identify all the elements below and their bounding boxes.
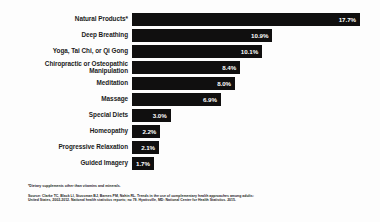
bar-category-label: Guided Imagery <box>0 160 132 167</box>
bar-row: Massage6.9% <box>0 93 380 106</box>
bar: 3.0% <box>132 109 171 122</box>
bar: 6.9% <box>132 93 221 106</box>
bar-value-label: 8.0% <box>217 80 231 87</box>
bar-value-label: 10.1% <box>241 48 258 55</box>
bar-category-label: Deep Breathing <box>0 32 132 39</box>
bar-row: Homeopathy2.2% <box>0 125 380 138</box>
bar-track: 2.2% <box>132 125 380 138</box>
bar-track: 6.9% <box>132 93 380 106</box>
bar-value-label: 8.4% <box>222 64 236 71</box>
bar: 8.4% <box>132 61 240 74</box>
bar-category-label: Progressive Relaxation <box>0 144 132 151</box>
bar-category-label: Homeopathy <box>0 128 132 135</box>
bar: 2.2% <box>132 125 160 138</box>
bar-track: 8.4% <box>132 61 380 74</box>
bar-row: Meditation8.0% <box>0 77 380 90</box>
bar-value-label: 1.7% <box>136 160 150 167</box>
bar-row: Progressive Relaxation2.1% <box>0 141 380 154</box>
bar: 8.0% <box>132 77 235 90</box>
bar-row: Chiropractic or Osteopathic Manipulation… <box>0 61 380 74</box>
bar-value-label: 17.7% <box>339 16 356 23</box>
bar-row: Natural Products*17.7% <box>0 13 380 26</box>
bar-category-label: Natural Products* <box>0 16 132 23</box>
bar: 17.7% <box>132 13 360 26</box>
bar-value-label: 2.1% <box>141 144 155 151</box>
bar: 10.9% <box>132 29 272 42</box>
bar-track: 8.0% <box>132 77 380 90</box>
bar-value-label: 2.2% <box>142 128 156 135</box>
bar-row: Yoga, Tai Chi, or Qi Gong10.1% <box>0 45 380 58</box>
bar-row: Guided Imagery1.7% <box>0 157 380 170</box>
bar-row: Deep Breathing10.9% <box>0 29 380 42</box>
bar-value-label: 6.9% <box>203 96 217 103</box>
bar-category-label: Special Diets <box>0 112 132 119</box>
bar-track: 10.1% <box>132 45 380 58</box>
bar-track: 17.7% <box>132 13 380 26</box>
chart-plot-area: Natural Products*17.7%Deep Breathing10.9… <box>0 13 380 173</box>
bar-category-label: Meditation <box>0 80 132 87</box>
bar: 2.1% <box>132 141 159 154</box>
bar-value-label: 3.0% <box>153 112 167 119</box>
bar-category-label: Chiropractic or Osteopathic Manipulation <box>0 61 132 74</box>
bar-category-label: Massage <box>0 96 132 103</box>
bar: 1.7% <box>132 157 154 170</box>
bar-track: 2.1% <box>132 141 380 154</box>
bar-value-label: 10.9% <box>251 32 268 39</box>
footnote-asterisk-note: *Dietary supplements other than vitamins… <box>28 184 258 189</box>
bar-track: 3.0% <box>132 109 380 122</box>
bar-track: 10.9% <box>132 29 380 42</box>
bar-chart-figure: Natural Products*17.7%Deep Breathing10.9… <box>0 0 380 222</box>
bar-track: 1.7% <box>132 157 380 170</box>
bar: 10.1% <box>132 45 262 58</box>
chart-footnotes: *Dietary supplements other than vitamins… <box>28 184 258 203</box>
bar-row: Special Diets3.0% <box>0 109 380 122</box>
bar-category-label: Yoga, Tai Chi, or Qi Gong <box>0 48 132 55</box>
footnote-source-citation: Source: Clarke TC, Black LI, Stussman BJ… <box>28 194 258 203</box>
